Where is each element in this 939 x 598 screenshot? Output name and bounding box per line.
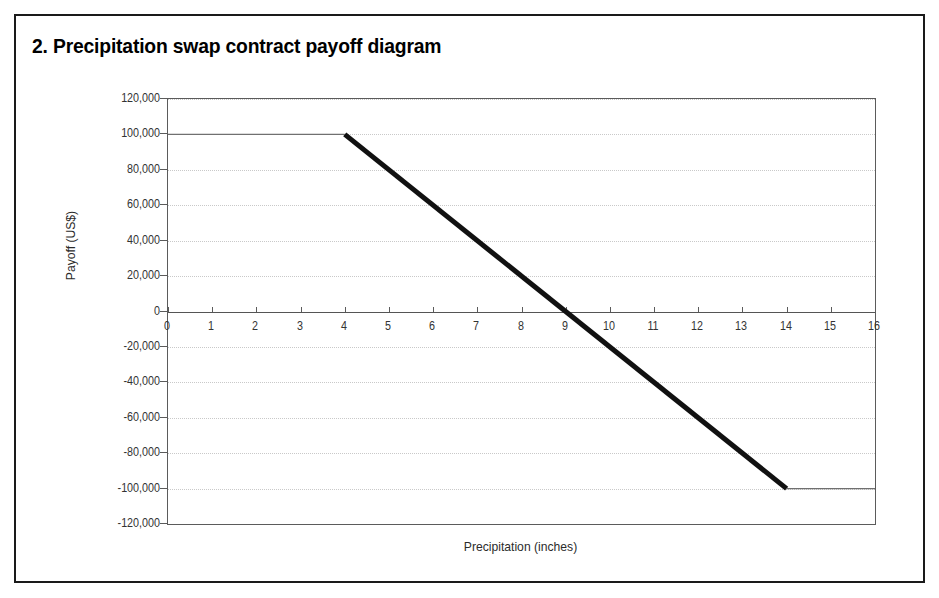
x-tick-label: 13 [729,319,755,333]
x-tick-label: 0 [154,319,180,333]
y-tick-label: 120,000 [93,91,160,105]
x-tick-label: 2 [242,319,268,333]
y-tick-mark [160,133,167,134]
y-tick-label: -120,000 [93,516,160,530]
figure-frame: 2. Precipitation swap contract payoff di… [14,14,925,583]
y-tick-label: -80,000 [93,445,160,459]
x-tick-label: 15 [817,319,843,333]
y-tick-label: -20,000 [93,339,160,353]
x-tick-label: 1 [198,319,224,333]
y-tick-label: 100,000 [93,126,160,140]
y-tick-label: 20,000 [93,268,160,282]
y-tick-mark [160,98,167,99]
x-tick-label: 11 [640,319,666,333]
y-tick-mark [160,169,167,170]
y-tick-label: 0 [93,304,160,318]
x-tick-label: 4 [331,319,357,333]
x-tick-label: 7 [463,319,489,333]
y-tick-label: -100,000 [93,481,160,495]
y-tick-mark [160,381,167,382]
y-tick-mark [160,452,167,453]
chart-canvas: Payoff (US$) 120,000100,00080,00060,0004… [16,16,927,585]
y-tick-label: 40,000 [93,233,160,247]
y-tick-mark [160,346,167,347]
y-tick-label: -60,000 [93,410,160,424]
x-tick-label: 14 [773,319,799,333]
x-tick-label: 12 [684,319,710,333]
x-axis-title: Precipitation (inches) [202,539,838,554]
x-tick-label: 8 [508,319,534,333]
x-tick-label: 6 [419,319,445,333]
x-tick-label: 9 [552,319,578,333]
y-tick-mark [160,240,167,241]
series-segment-linear-payoff [345,134,787,488]
x-tick-mark [875,307,876,312]
y-tick-mark [160,275,167,276]
y-tick-label: 60,000 [93,197,160,211]
y-tick-label: 80,000 [93,162,160,176]
gridline [168,524,875,525]
x-tick-label: 5 [375,319,401,333]
x-tick-label: 3 [287,319,313,333]
y-tick-mark [160,311,167,312]
y-tick-mark [160,417,167,418]
plot-area [167,98,876,525]
payoff-series [168,99,875,524]
y-tick-mark [160,488,167,489]
y-tick-mark [160,523,167,524]
y-tick-mark [160,204,167,205]
x-tick-label: 16 [861,319,887,333]
y-tick-label: -40,000 [93,374,160,388]
x-tick-label: 10 [596,319,622,333]
